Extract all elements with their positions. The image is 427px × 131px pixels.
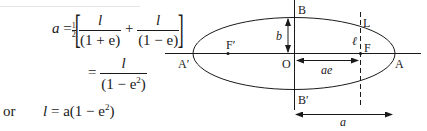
focus-f-prime-point: [226, 52, 229, 55]
ellipse-diagram: B B′ O A A′ F′ F L b ℓ ae a: [0, 0, 427, 131]
label-O: O: [282, 57, 291, 71]
focus-f-point: [359, 52, 362, 55]
label-ae: ae: [321, 63, 333, 77]
label-A-prime: A′: [178, 57, 190, 71]
label-ell: ℓ: [352, 34, 357, 48]
label-a: a: [340, 115, 346, 129]
label-F: F: [364, 41, 371, 55]
label-A: A: [395, 57, 404, 71]
label-B-prime: B′: [298, 93, 309, 107]
label-b: b: [276, 29, 282, 43]
label-L: L: [363, 16, 370, 30]
label-B: B: [298, 3, 306, 17]
label-F-prime: F′: [226, 38, 236, 52]
